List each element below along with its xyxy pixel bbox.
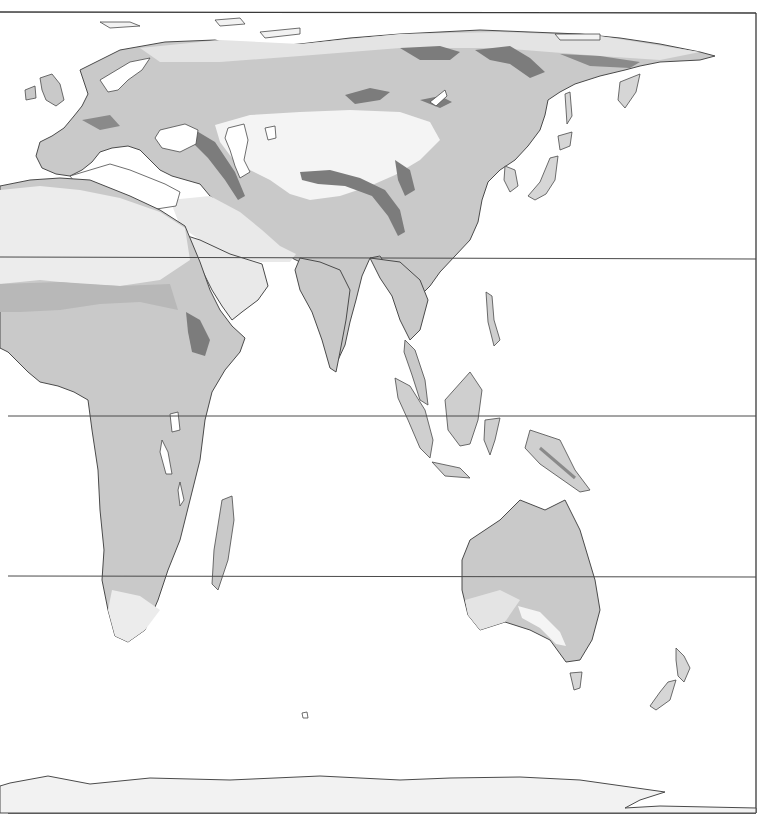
small-island bbox=[302, 712, 308, 718]
world-map bbox=[0, 0, 775, 827]
